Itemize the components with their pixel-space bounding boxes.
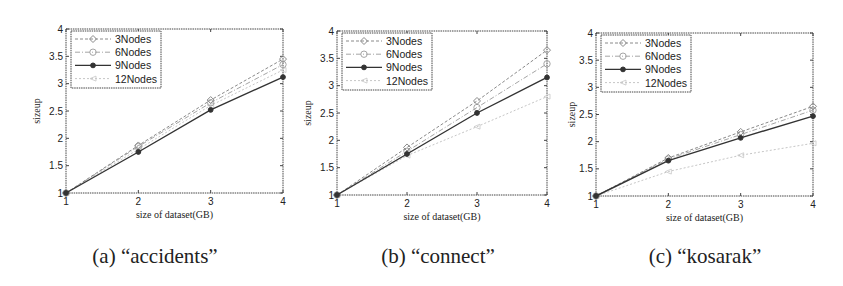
dot-marker-icon [738, 135, 743, 140]
caption-connect: (b) “connect” [381, 244, 495, 269]
dot-marker-icon [811, 114, 816, 119]
caption-kosarak: (c) “kosarak” [649, 244, 762, 269]
legend-label: 6Nodes [645, 50, 681, 62]
dot-marker-icon [594, 194, 599, 199]
y-tick-label: 3 [587, 82, 593, 93]
y-tick-label: 4 [587, 28, 593, 39]
dot-marker-icon [621, 67, 626, 72]
legend-label: 3Nodes [645, 37, 681, 49]
legend-label: 9Nodes [645, 63, 681, 75]
y-tick-label: 2 [587, 136, 593, 147]
x-tick-label: 4 [810, 199, 816, 210]
y-axis-label: sizeup [566, 102, 577, 128]
legend-label: 12Nodes [645, 77, 687, 89]
y-tick-label: 1.5 [579, 163, 593, 174]
legend: 3Nodes6Nodes9Nodes12Nodes [601, 35, 691, 92]
x-tick-label: 3 [738, 199, 744, 210]
caption-accidents: (a) “accidents” [92, 244, 217, 269]
x-tick-label: 2 [666, 199, 672, 210]
x-axis-label: size of dataset(GB) [666, 212, 743, 224]
y-tick-label: 3.5 [579, 55, 593, 66]
x-tick-label: 1 [593, 199, 599, 210]
dot-marker-icon [666, 158, 671, 163]
y-tick-label: 2.5 [579, 109, 593, 120]
